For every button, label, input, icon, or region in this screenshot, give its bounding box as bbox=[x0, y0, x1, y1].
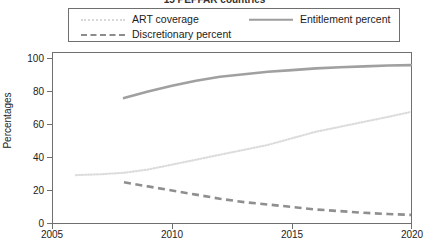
series-line-art-coverage bbox=[76, 112, 411, 175]
y-axis-ticks bbox=[47, 59, 53, 224]
x-axis-ticks bbox=[53, 224, 412, 230]
series-line-discretionary-percent bbox=[124, 182, 411, 215]
chart-figure: 15 PEPFAR countries ART coverage Entitle… bbox=[0, 0, 429, 250]
series-line-entitlement-percent bbox=[124, 65, 411, 98]
plot-area bbox=[0, 0, 429, 250]
axis-frame bbox=[53, 53, 412, 224]
